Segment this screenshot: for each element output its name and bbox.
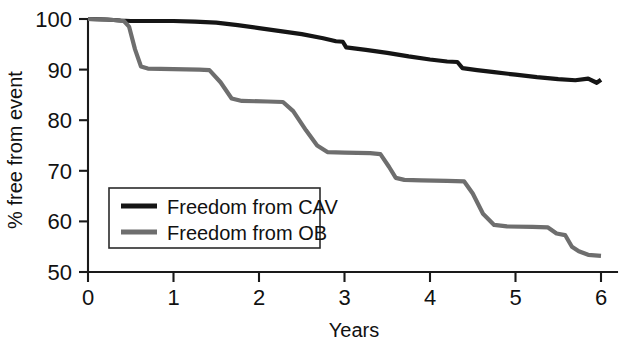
series-line-freedom-from-cav xyxy=(88,19,601,83)
x-tick-label: 2 xyxy=(253,285,265,310)
x-tick-label: 3 xyxy=(338,285,350,310)
x-tick-label: 4 xyxy=(424,285,436,310)
y-tick-label: 70 xyxy=(48,159,72,184)
kaplan-meier-chart: 5060708090100 0123456 Freedom from CAVFr… xyxy=(0,0,619,343)
legend-label: Freedom from CAV xyxy=(167,196,338,218)
y-axis-ticks: 5060708090100 xyxy=(35,7,88,285)
legend-label: Freedom from OB xyxy=(167,222,327,244)
y-tick-label: 50 xyxy=(48,260,72,285)
chart-legend: Freedom from CAVFreedom from OB xyxy=(109,188,338,248)
x-axis-ticks: 0123456 xyxy=(82,272,607,310)
y-tick-label: 60 xyxy=(48,209,72,234)
x-axis-title: Years xyxy=(329,319,379,341)
x-tick-label: 6 xyxy=(595,285,607,310)
y-tick-label: 90 xyxy=(48,58,72,83)
y-tick-label: 100 xyxy=(35,7,72,32)
x-tick-label: 5 xyxy=(509,285,521,310)
survival-curve-figure: 5060708090100 0123456 Freedom from CAVFr… xyxy=(0,0,619,343)
x-tick-label: 0 xyxy=(82,285,94,310)
y-axis-title: % free from event xyxy=(4,71,26,229)
y-tick-label: 80 xyxy=(48,108,72,133)
x-tick-label: 1 xyxy=(167,285,179,310)
